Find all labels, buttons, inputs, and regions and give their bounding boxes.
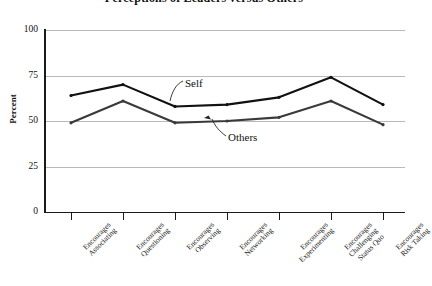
x-tick-0 xyxy=(71,213,72,220)
y-tick-label-0: 0 xyxy=(2,206,38,216)
x-category-label-2: Encourages Observing xyxy=(185,221,222,258)
x-category-label-4: Encourages Experimenting xyxy=(292,221,336,265)
x-category-label-0: Encourages Associating xyxy=(82,221,119,258)
x-tick-3 xyxy=(227,213,228,220)
gridline-100 xyxy=(45,30,405,31)
y-axis-line xyxy=(44,29,46,213)
x-category-label-6: Encourages Risk Taking xyxy=(394,221,432,259)
x-category-label-1: Encourages Questioning xyxy=(134,221,172,259)
y-tick-label-50: 50 xyxy=(2,115,38,125)
x-tick-2 xyxy=(175,213,176,220)
annotation-others: Others xyxy=(228,131,257,143)
y-axis-title: Percent xyxy=(8,79,18,139)
gridline-50 xyxy=(45,121,405,122)
y-tick-label-25: 25 xyxy=(2,161,38,171)
x-tick-5 xyxy=(331,213,332,220)
x-category-label-3: Encourages Networking xyxy=(238,221,276,259)
x-category-label-5: Encourages Challenging Status Quo xyxy=(342,221,386,265)
gridline-75 xyxy=(45,76,405,77)
x-tick-6 xyxy=(383,213,384,220)
plot-area xyxy=(45,30,405,212)
annotation-self: Self xyxy=(185,77,203,89)
gridline-25 xyxy=(45,167,405,168)
chart-title: Perceptions of Leaders versus Others xyxy=(0,0,408,6)
x-tick-1 xyxy=(123,213,124,220)
x-tick-4 xyxy=(279,213,280,220)
y-tick-label-100: 100 xyxy=(2,24,38,34)
x-axis-line xyxy=(45,212,405,213)
y-tick-label-75: 75 xyxy=(2,70,38,80)
